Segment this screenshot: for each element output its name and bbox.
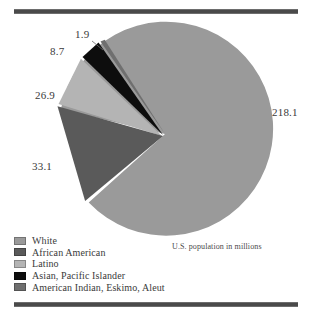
chart-legend: White African American Latino Asian, Pac… bbox=[14, 235, 165, 293]
pie-chart-figure: 218.1 33.1 26.9 8.7 1.9 U.S. population … bbox=[0, 0, 312, 321]
legend-item-white[interactable]: White bbox=[14, 235, 165, 247]
legend-item-african-american[interactable]: African American bbox=[14, 247, 165, 259]
legend-label-american-indian: American Indian, Eskimo, Aleut bbox=[32, 282, 165, 293]
legend-item-american-indian[interactable]: American Indian, Eskimo, Aleut bbox=[14, 281, 165, 293]
legend-label-african-american: African American bbox=[32, 247, 106, 258]
data-label-african-american: 33.1 bbox=[32, 160, 52, 172]
data-label-american-indian: 1.9 bbox=[75, 28, 89, 40]
horizontal-rule-bottom bbox=[14, 302, 298, 307]
legend-swatch-latino bbox=[14, 260, 26, 268]
legend-item-asian-pacific-islander[interactable]: Asian, Pacific Islander bbox=[14, 270, 165, 282]
legend-swatch-asian-pacific-islander bbox=[14, 272, 26, 280]
legend-swatch-african-american bbox=[14, 248, 26, 256]
legend-swatch-white bbox=[14, 237, 26, 245]
legend-label-latino: Latino bbox=[32, 258, 59, 269]
data-label-latino: 26.9 bbox=[35, 89, 55, 101]
legend-item-latino[interactable]: Latino bbox=[14, 258, 165, 270]
data-label-asian-pacific-islander: 8.7 bbox=[50, 45, 64, 57]
legend-label-white: White bbox=[32, 235, 57, 246]
data-label-white: 218.1 bbox=[272, 106, 298, 118]
chart-caption: U.S. population in millions bbox=[172, 242, 262, 251]
legend-swatch-american-indian bbox=[14, 283, 26, 291]
legend-label-asian-pacific-islander: Asian, Pacific Islander bbox=[32, 270, 125, 281]
